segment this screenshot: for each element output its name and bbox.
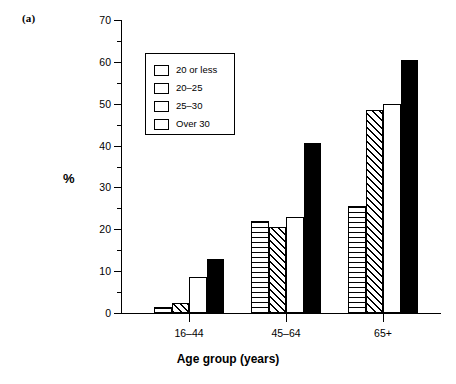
bar [207, 259, 225, 313]
bar [286, 217, 304, 313]
y-tick-label: 20 [99, 224, 111, 235]
legend-item: 25–30 [154, 97, 234, 115]
y-tick-major [114, 271, 121, 272]
bar [189, 277, 207, 313]
y-tick-major [114, 146, 121, 147]
y-tick-label: 10 [99, 266, 111, 277]
legend-label: 25–30 [176, 101, 202, 111]
x-axis-line [121, 313, 441, 314]
y-tick-minor [117, 167, 121, 168]
legend-item: 20 or less [154, 61, 234, 79]
x-tick-label: 65+ [374, 327, 392, 339]
x-tick [383, 313, 384, 322]
y-tick-major [114, 104, 121, 105]
y-tick-label: 0 [105, 308, 111, 319]
x-tick [189, 313, 190, 322]
legend-label: 20 or less [176, 65, 217, 75]
y-tick-label: 60 [99, 57, 111, 68]
legend-swatch [154, 65, 169, 76]
x-axis-title: Age group (years) [0, 352, 456, 366]
y-tick-minor [117, 125, 121, 126]
y-axis-title: % [63, 172, 75, 185]
y-tick-label: 40 [99, 140, 111, 151]
bar [401, 60, 419, 313]
bar [366, 110, 384, 313]
legend: 20 or less20–2525–30Over 30 [145, 53, 235, 135]
legend-item: 20–25 [154, 79, 234, 97]
y-axis-line [121, 20, 122, 313]
bar [172, 303, 190, 313]
bar [154, 307, 172, 313]
y-tick-major [114, 20, 121, 21]
y-tick-minor [117, 41, 121, 42]
bar [383, 104, 401, 313]
legend-swatch [154, 83, 169, 94]
y-tick-major [114, 313, 121, 314]
legend-item: Over 30 [154, 115, 234, 133]
x-tick-label: 45–64 [271, 327, 300, 339]
y-tick-major [114, 62, 121, 63]
x-tick-label: 16–44 [174, 327, 203, 339]
y-tick-label: 70 [99, 15, 111, 26]
bar [269, 227, 287, 313]
y-tick-minor [117, 292, 121, 293]
panel-label: (a) [22, 12, 35, 24]
y-tick-major [114, 229, 121, 230]
legend-label: 20–25 [176, 83, 202, 93]
y-tick-label: 50 [99, 98, 111, 109]
legend-swatch [154, 101, 169, 112]
legend-swatch [154, 119, 169, 130]
y-tick-label: 30 [99, 182, 111, 193]
y-tick-major [114, 187, 121, 188]
y-tick-minor [117, 208, 121, 209]
bar [251, 221, 269, 313]
legend-label: Over 30 [176, 119, 210, 129]
y-tick-minor [117, 250, 121, 251]
bar [304, 143, 322, 313]
bar [348, 206, 366, 313]
x-tick [286, 313, 287, 322]
y-tick-minor [117, 83, 121, 84]
